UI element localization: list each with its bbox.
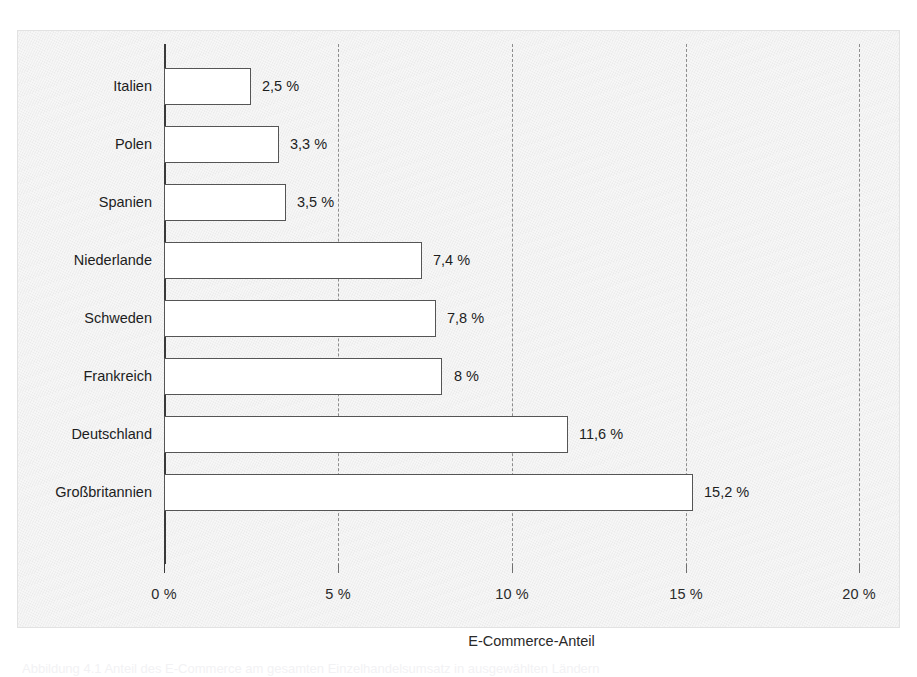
category-label: Spanien	[18, 184, 152, 221]
value-label: 7,8 %	[447, 300, 484, 337]
category-label: Polen	[18, 126, 152, 163]
x-axis-title: E-Commerce-Anteil	[18, 633, 901, 649]
tick-10	[512, 564, 513, 573]
xtick-label-20: 20 %	[842, 586, 875, 602]
value-label: 11,6 %	[579, 416, 623, 453]
category-label: Deutschland	[18, 416, 152, 453]
figure-caption: Abbildung 4.1 Anteil des E-Commerce am g…	[22, 661, 892, 676]
value-label: 8 %	[454, 358, 479, 395]
bar	[164, 300, 436, 337]
chart-plot-frame: 0 % 5 % 10 % 15 % 20 % Italien 2,5 % Pol…	[17, 30, 900, 628]
tick-20	[859, 564, 860, 573]
xtick-label-10: 10 %	[495, 586, 528, 602]
category-label: Schweden	[18, 300, 152, 337]
value-label: 3,5 %	[297, 184, 334, 221]
x-axis-title-text: E-Commerce-Anteil	[468, 633, 595, 649]
bar	[164, 184, 286, 221]
value-label: 3,3 %	[290, 126, 327, 163]
category-label: Niederlande	[18, 242, 152, 279]
bar	[164, 242, 422, 279]
xtick-label-15: 15 %	[669, 586, 702, 602]
xtick-label-0: 0 %	[151, 586, 176, 602]
category-label: Großbritannien	[18, 474, 152, 511]
tick-15	[686, 564, 687, 573]
bar	[164, 358, 442, 395]
bar	[164, 474, 693, 511]
tick-0	[164, 564, 165, 573]
tick-5	[338, 564, 339, 573]
bar	[164, 68, 251, 105]
value-label: 15,2 %	[704, 474, 749, 511]
bar	[164, 416, 568, 453]
chart-figure: 0 % 5 % 10 % 15 % 20 % Italien 2,5 % Pol…	[0, 0, 917, 677]
category-label: Italien	[18, 68, 152, 105]
bar	[164, 126, 279, 163]
value-label: 7,4 %	[433, 242, 470, 279]
xtick-label-5: 5 %	[325, 586, 350, 602]
gridline-20	[859, 44, 860, 571]
value-label: 2,5 %	[262, 68, 299, 105]
category-label: Frankreich	[18, 358, 152, 395]
